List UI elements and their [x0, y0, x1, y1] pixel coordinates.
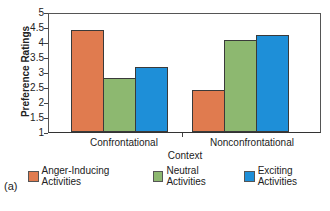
plot-area	[48, 13, 321, 133]
legend-label: Anger-Inducing Activities	[42, 165, 145, 187]
legend-item-neutral: Neutral Activities	[153, 165, 236, 187]
bar	[192, 90, 225, 132]
bar	[135, 67, 168, 132]
legend-item-exciting: Exciting Activities	[244, 165, 330, 187]
legend-swatch	[244, 171, 254, 182]
x-axis-tick	[182, 133, 183, 137]
legend: Anger-Inducing Activities Neutral Activi…	[28, 165, 330, 187]
y-tick: 1	[0, 128, 44, 138]
y-tick: 4.5	[0, 23, 44, 33]
y-tick: 1.5	[0, 113, 44, 123]
legend-swatch	[28, 171, 39, 182]
bar	[71, 30, 104, 132]
y-tick: 3.5	[0, 53, 44, 63]
y-tick: 5	[0, 8, 44, 18]
bar	[256, 35, 289, 132]
y-tick: 4	[0, 38, 44, 48]
legend-label: Exciting Activities	[258, 165, 330, 187]
panel-label: (a)	[4, 180, 17, 192]
legend-label: Neutral Activities	[166, 165, 236, 187]
bar	[224, 40, 257, 132]
y-tick: 2	[0, 98, 44, 108]
y-tick: 2.5	[0, 83, 44, 93]
bar	[103, 78, 136, 132]
x-category-nonconfrontational: Nonconfrontational	[202, 137, 302, 148]
x-axis-label: Context	[0, 150, 330, 161]
y-tick: 3	[0, 68, 44, 78]
legend-swatch	[153, 171, 163, 182]
legend-item-anger: Anger-Inducing Activities	[28, 165, 145, 187]
x-category-confrontational: Confrontational	[84, 137, 164, 148]
